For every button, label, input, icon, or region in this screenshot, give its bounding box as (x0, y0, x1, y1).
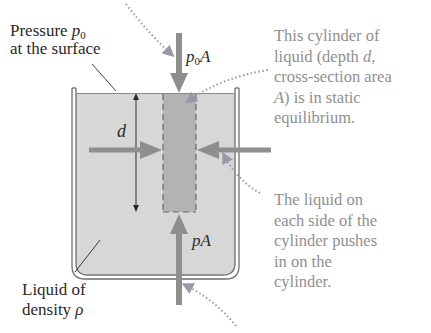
surface-pressure-label: Pressure p0 at the surface (10, 22, 101, 58)
side-pressure-callout: The liquid on each side of the cylinder … (274, 190, 377, 293)
top-force-suffix: A (200, 47, 210, 66)
rho-symbol: ρ (75, 300, 83, 319)
top-force-label: p0A (186, 48, 210, 66)
callout-line: in on the (274, 252, 332, 271)
bottom-dotted-leader (187, 286, 236, 326)
callout-line: The liquid on (274, 190, 363, 209)
callout-line: equilibrium. (274, 108, 355, 127)
surface-pressure-prefix: Pressure (10, 21, 72, 40)
surface-leader-line (92, 64, 116, 91)
liquid-density-label: Liquid of density ρ (22, 280, 86, 320)
callout-symbol-a: A (274, 88, 284, 107)
liquid-cylinder (163, 94, 196, 212)
surface-pressure-line2: at the surface (10, 39, 101, 58)
tank (72, 88, 239, 279)
top-dotted-leader (126, 4, 170, 53)
callout-line: cylinder pushes (274, 231, 377, 250)
callout-symbol-d: d (363, 47, 371, 66)
liquid-density-line2: density (22, 300, 75, 319)
bottom-force-label: pA (192, 232, 211, 250)
callout-line: cylinder. (274, 272, 331, 291)
callout-line: liquid (depth (274, 47, 363, 66)
callout-line: This cylinder of (274, 26, 379, 45)
liquid-density-line1: Liquid of (22, 280, 86, 299)
depth-label: d (117, 122, 126, 140)
callout-line: cross-section area (274, 67, 392, 86)
callout-line: , (371, 47, 375, 66)
cylinder-equilibrium-callout: This cylinder of liquid (depth d, cross-… (274, 26, 392, 129)
callout-line: ) is in static (284, 88, 361, 107)
callout-line: each side of the (274, 211, 377, 230)
top-force-symbol: p (186, 47, 195, 66)
